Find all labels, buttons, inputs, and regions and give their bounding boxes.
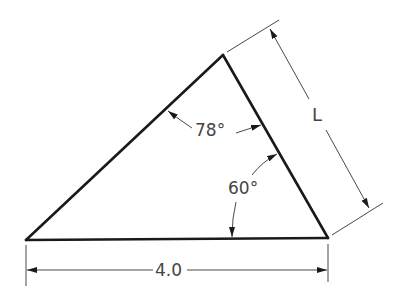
dimension-line-side-top — [270, 29, 309, 99]
base-length-label: 4.0 — [153, 262, 184, 279]
extension-line-bottom — [332, 203, 383, 235]
edge-left — [26, 55, 223, 240]
edge-base — [26, 238, 328, 240]
angle-60-label: 60° — [226, 180, 260, 197]
edge-right — [223, 55, 328, 238]
triangle — [26, 55, 328, 240]
diagram-canvas: 78° 60° 4.0 L — [0, 0, 407, 307]
dimension-line-side-bottom — [326, 130, 369, 208]
angle-78-leader-right — [236, 125, 261, 133]
extension-line-top — [227, 20, 279, 52]
angle-78-label: 78° — [193, 122, 227, 139]
angle-60-leader-upper — [252, 154, 277, 175]
side-dimension — [227, 20, 383, 235]
angle-60-leader-lower — [232, 202, 236, 237]
side-length-label: L — [310, 106, 324, 124]
angle-78-leader-left — [168, 111, 192, 128]
triangle-drawing — [0, 0, 407, 307]
